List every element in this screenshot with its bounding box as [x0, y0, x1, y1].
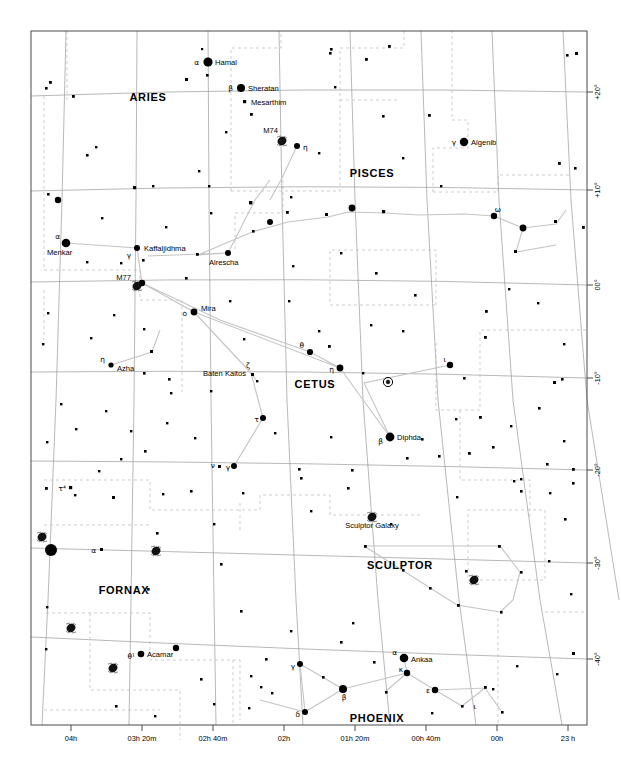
dec-tick-label-3: -10° — [593, 371, 602, 385]
greek-label-diphda: β — [378, 437, 383, 446]
star-chart-root: ARIES PISCES CETUS FORNAX SCULPTOR PHOEN… — [0, 0, 621, 768]
star-label-hamal: Hamal — [215, 58, 237, 67]
dec-tick-label-4: -20° — [593, 463, 602, 477]
greek-label-algenib: γ — [452, 138, 457, 147]
dec-tick-label-0: +20° — [593, 84, 602, 100]
star-label-sheratan: Sheratan — [248, 84, 279, 93]
dso-label-m77: M77 — [116, 273, 131, 282]
greek-label-sheratan: β — [228, 84, 233, 93]
ra-tick-label-5: 00h 40m — [412, 734, 441, 743]
star-label-ankaa: Ankaa — [411, 655, 433, 664]
greek-label-omega-psc: ω — [495, 205, 501, 214]
greek-label-beta-phe: β — [342, 693, 347, 702]
constellation-label-cetus: CETUS — [295, 378, 336, 390]
greek-label-epsilon-phe: ε — [426, 686, 430, 695]
greek-label-nu-for: ν — [211, 461, 215, 470]
constellation-label-fornax: FORNAX — [99, 584, 150, 596]
ra-tick-label-1: 03h 20m — [128, 734, 157, 743]
galaxy-icon-unlabeled-3 — [66, 623, 76, 633]
ra-tick-label-0: 04h — [65, 734, 77, 743]
ra-tick-label-7: 23 h — [561, 734, 575, 743]
dec-tick-label-6: -40° — [593, 652, 602, 666]
greek-label-azha: η — [100, 355, 105, 364]
greek-label-gamma-phe: γ — [291, 662, 296, 671]
ra-tick-label-4: 01h 20m — [341, 734, 370, 743]
constellation-label-pisces: PISCES — [350, 167, 395, 179]
dec-gridlines — [31, 90, 587, 659]
constellation-label-sculptor: SCULPTOR — [367, 559, 433, 571]
star-name-labels: α Hamal β Sheratan Mesarthim γ Algenib α… — [47, 58, 496, 664]
star-label-menkar: Menkar — [47, 248, 73, 257]
galaxy-icon-m74 — [277, 136, 287, 146]
ra-tick-label-2: 02h 40m — [199, 734, 228, 743]
greek-label-eta-cet: η — [329, 365, 334, 374]
dec-tick-label-1: +10° — [593, 182, 602, 198]
star-label-diphda: Diphda — [397, 433, 422, 442]
star-label-baten-kaitos: Baten Kaitos — [203, 369, 246, 378]
planetary-nebula-icon — [383, 377, 392, 386]
ra-tick-label-3: 02h — [278, 734, 290, 743]
greek-label-iota-cet: ι — [443, 355, 446, 364]
greek-label-menkar: α — [55, 232, 60, 241]
constellation-figure-lines — [66, 146, 566, 712]
galaxy-icon-unlabeled-5 — [469, 575, 479, 585]
ra-tick-label-6: 00h — [491, 734, 503, 743]
greek-label-theta-cet: θ — [299, 341, 304, 350]
greek-label-tau4-eri: τ⁴ — [59, 484, 66, 493]
star-label-mira: Mira — [201, 304, 217, 313]
star-label-acamar: Acamar — [147, 650, 174, 659]
constellation-label-phoenix: PHOENIX — [350, 712, 404, 724]
greek-label-baten-kaitos: ζ — [246, 361, 250, 370]
galaxy-icon-unlabeled-1 — [37, 532, 47, 542]
greek-label-delta-phe: δ — [295, 710, 300, 719]
greek-designation-labels: η ω θ η τ ι γ ν τ⁴ α γ δ β κ ε ι — [59, 143, 501, 719]
dso-label-m74: M74 — [263, 126, 278, 135]
star-label-algenib: Algenib — [471, 138, 496, 147]
greek-label-kaffaljidhma: γ — [127, 251, 132, 260]
greek-label-mira: ο — [182, 309, 187, 318]
constellation-label-aries: ARIES — [129, 91, 166, 103]
greek-label-ankaa: α — [392, 648, 397, 657]
galaxy-icon-unlabeled-2 — [151, 546, 161, 556]
greek-label-gamma-cet: γ — [226, 463, 231, 472]
star-label-alrescha: Alrescha — [209, 258, 239, 267]
greek-label-tau-cet: τ — [255, 415, 260, 424]
greek-label-kappa-phe: κ — [399, 665, 404, 674]
galaxy-icon-unlabeled-4 — [108, 663, 118, 673]
greek-label-hamal: α — [194, 58, 199, 67]
ra-axis-labels: 04h 03h 20m 02h 40m 02h 01h 20m 00h 40m … — [65, 734, 575, 743]
star-label-mesarthim: Mesarthim — [251, 98, 286, 107]
dec-tick-label-2: 00° — [593, 279, 602, 290]
star-label-azha: Azha — [117, 364, 135, 373]
dec-tick-label-5: -30° — [593, 556, 602, 570]
star-label-kaffaljidhma: Kaffaljidhma — [144, 244, 186, 253]
dec-axis-labels: +20° +10° 00° -10° -20° -30° -40° — [593, 84, 602, 666]
sky-map-svg: ARIES PISCES CETUS FORNAX SCULPTOR PHOEN… — [0, 0, 621, 768]
greek-label-alpha-for: α — [91, 546, 96, 555]
greek-label-acamar: θ¹ — [128, 652, 136, 661]
greek-label-eta-psc: η — [303, 143, 308, 152]
dso-label-sculptor-galaxy: Sculptor Galaxy — [345, 521, 399, 530]
greek-label-iota-phe: ι — [473, 702, 476, 711]
